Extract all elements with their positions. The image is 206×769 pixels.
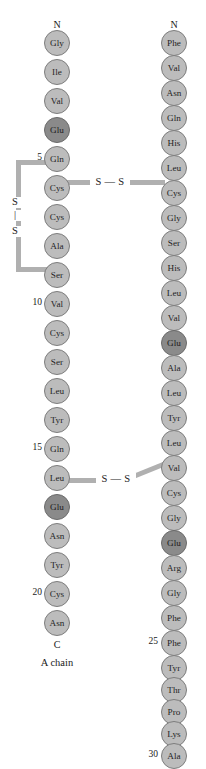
b-chain-residue-25[interactable]: Phe xyxy=(161,630,187,656)
a-chain-n-terminus-label: N xyxy=(37,19,77,30)
b-chain-n-terminus-label: N xyxy=(154,19,194,30)
b-chain-residue-1[interactable]: Phe xyxy=(161,30,187,56)
a-chain-residue-7[interactable]: Cys xyxy=(44,204,70,230)
a-chain-residue-6[interactable]: Cys xyxy=(44,175,70,201)
a-chain-residue-11[interactable]: Cys xyxy=(44,320,70,346)
b-chain-residue-21[interactable]: Glu xyxy=(161,530,187,556)
a-chain-number-20: 20 xyxy=(20,587,42,597)
a-chain-residue-9[interactable]: Ser xyxy=(44,262,70,288)
a-chain-residue-10[interactable]: Val xyxy=(44,291,70,317)
disulfide-label-a20-b19: S — S xyxy=(96,473,136,484)
b-chain-residue-2[interactable]: Val xyxy=(161,55,187,81)
a-chain-number-5: 5 xyxy=(20,152,42,162)
a-chain-residue-3[interactable]: Val xyxy=(44,88,70,114)
b-chain-number-30: 30 xyxy=(136,749,158,759)
a-chain-residue-15[interactable]: Gln xyxy=(44,436,70,462)
a-chain-residue-1[interactable]: Gly xyxy=(44,30,70,56)
b-chain-residue-17[interactable]: Leu xyxy=(161,430,187,456)
a-chain-residue-5[interactable]: Gln xyxy=(44,146,70,172)
a-chain-number-15: 15 xyxy=(20,442,42,452)
disulfide-label-intrachain-bottom: S xyxy=(9,226,21,237)
b-chain-residue-3[interactable]: Asn xyxy=(161,80,187,106)
a-chain-residue-14[interactable]: Tyr xyxy=(44,407,70,433)
a-chain-residue-13[interactable]: Leu xyxy=(44,378,70,404)
b-chain-residue-19[interactable]: Cys xyxy=(161,480,187,506)
b-chain-residue-6[interactable]: Leu xyxy=(161,155,187,181)
a-chain-number-10: 10 xyxy=(20,297,42,307)
b-chain-residue-8[interactable]: Gly xyxy=(161,205,187,231)
b-chain-residue-16[interactable]: Tyr xyxy=(161,405,187,431)
b-chain-residue-20[interactable]: Gly xyxy=(161,505,187,531)
a-chain-residue-19[interactable]: Tyr xyxy=(44,552,70,578)
b-chain-residue-9[interactable]: Ser xyxy=(161,230,187,256)
b-chain-residue-22[interactable]: Arg xyxy=(161,555,187,581)
a-chain-residue-18[interactable]: Asn xyxy=(44,523,70,549)
a-chain-residue-8[interactable]: Ala xyxy=(44,233,70,259)
a-chain-residue-4[interactable]: Glu xyxy=(44,117,70,143)
b-chain-residue-4[interactable]: Gln xyxy=(161,105,187,131)
b-chain-residue-11[interactable]: Leu xyxy=(161,280,187,306)
a-chain-residue-21[interactable]: Asn xyxy=(44,610,70,636)
disulfide-label-intrachain-top: S xyxy=(9,197,21,208)
a-chain-residue-17[interactable]: Glu xyxy=(44,494,70,520)
a-chain-c-terminus-label: C xyxy=(37,639,77,650)
a-chain-residue-12[interactable]: Ser xyxy=(44,349,70,375)
b-chain-residue-30[interactable]: Ala xyxy=(161,743,187,769)
b-chain-residue-10[interactable]: His xyxy=(161,255,187,281)
b-chain-residue-14[interactable]: Ala xyxy=(161,355,187,381)
b-chain-residue-24[interactable]: Phe xyxy=(161,605,187,631)
b-chain-number-25: 25 xyxy=(136,636,158,646)
a-chain-residue-20[interactable]: Cys xyxy=(44,581,70,607)
a-chain-name-label: A chain xyxy=(22,657,92,668)
disulfide-label-intrachain-separator: | xyxy=(9,210,21,221)
disulfide-label-a7-b7: S — S xyxy=(90,176,130,187)
b-chain-residue-18[interactable]: Val xyxy=(161,455,187,481)
b-chain-residue-13[interactable]: Glu xyxy=(161,330,187,356)
a-chain-residue-2[interactable]: Ile xyxy=(44,59,70,85)
b-chain-residue-7[interactable]: Cys xyxy=(161,180,187,206)
b-chain-residue-5[interactable]: His xyxy=(161,130,187,156)
b-chain-residue-15[interactable]: Leu xyxy=(161,380,187,406)
b-chain-residue-12[interactable]: Val xyxy=(161,305,187,331)
b-chain-residue-23[interactable]: Gly xyxy=(161,580,187,606)
a-chain-residue-16[interactable]: Leu xyxy=(44,465,70,491)
